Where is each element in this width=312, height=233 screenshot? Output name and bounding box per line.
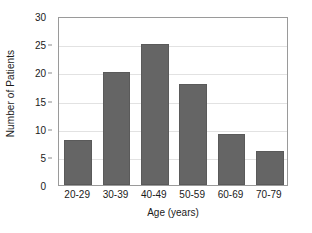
x-axis-tick-label: 40-49 <box>141 189 167 200</box>
y-axis-tick-label: 25 <box>35 40 46 51</box>
bar <box>141 44 169 185</box>
x-axis-tick-label: 20-29 <box>64 189 90 200</box>
y-axis-tick-labels: 051015202530 <box>22 17 52 186</box>
y-axis-tick-label: 0 <box>40 181 46 192</box>
y-axis-title: Number of Patients <box>0 0 22 186</box>
x-axis-tick-label: 60-69 <box>218 189 244 200</box>
y-axis-tick-label: 10 <box>35 124 46 135</box>
plot-area <box>58 17 288 186</box>
x-axis-title: Age (years) <box>58 207 288 218</box>
bars-layer <box>59 18 287 185</box>
y-axis-tick-mark <box>48 45 52 46</box>
y-axis-tick-label: 5 <box>40 152 46 163</box>
bar <box>218 134 246 185</box>
bar <box>64 140 92 185</box>
y-axis-tick-mark <box>48 73 52 74</box>
x-axis-tick-label: 70-79 <box>256 189 282 200</box>
y-axis-tick-mark <box>48 157 52 158</box>
bar <box>256 151 284 185</box>
bar <box>179 84 207 185</box>
bar <box>103 72 131 185</box>
y-axis-tick-mark <box>48 129 52 130</box>
bar-chart-figure: Number of Patients 051015202530 20-2930-… <box>0 0 312 233</box>
x-axis-tick-label: 50-59 <box>179 189 205 200</box>
x-axis-tick-labels: 20-2930-3940-4950-5960-6970-79 <box>58 189 288 203</box>
y-axis-title-text: Number of Patients <box>6 49 17 136</box>
x-axis-tick-label: 30-39 <box>103 189 129 200</box>
y-axis-tick-label: 30 <box>35 12 46 23</box>
y-axis-tick-mark <box>48 101 52 102</box>
y-axis-tick-label: 15 <box>35 96 46 107</box>
y-axis-tick-label: 20 <box>35 68 46 79</box>
